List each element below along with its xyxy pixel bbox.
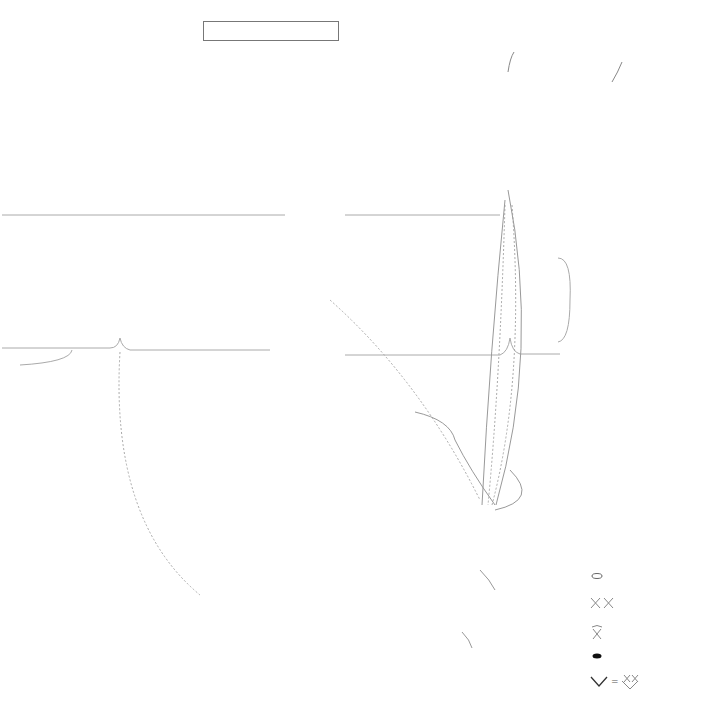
legend-single-crochet bbox=[590, 597, 620, 609]
slip-stitch-icon bbox=[590, 652, 604, 660]
legend-chain bbox=[590, 572, 608, 580]
single-crochet-icon bbox=[590, 597, 616, 609]
legend-increase: = bbox=[590, 672, 654, 690]
guide-lines bbox=[2, 52, 622, 648]
diagram-title bbox=[203, 21, 339, 41]
increase-icon: = bbox=[590, 672, 650, 690]
legend-reverse-single-crochet bbox=[590, 624, 608, 640]
reverse-single-crochet-icon bbox=[590, 624, 604, 640]
svg-text:=: = bbox=[611, 676, 619, 686]
chain-icon bbox=[590, 572, 604, 580]
legend-slip-stitch bbox=[590, 652, 608, 660]
